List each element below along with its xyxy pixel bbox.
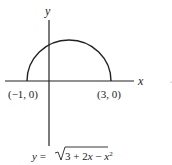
stray-dot	[170, 81, 171, 82]
equation-radicand: 3 + 2x − x2	[65, 150, 113, 162]
x-axis-label: x	[137, 74, 144, 88]
point-label-right: (3, 0)	[97, 88, 121, 101]
point-label-left: (−1, 0)	[8, 88, 38, 101]
equation-lhs: y =	[31, 150, 46, 162]
y-axis-label: y	[44, 4, 51, 18]
semicircle-curve	[27, 40, 111, 81]
semicircle-graph: y x (−1, 0) (3, 0) y = 3 + 2x − x2	[0, 0, 172, 165]
